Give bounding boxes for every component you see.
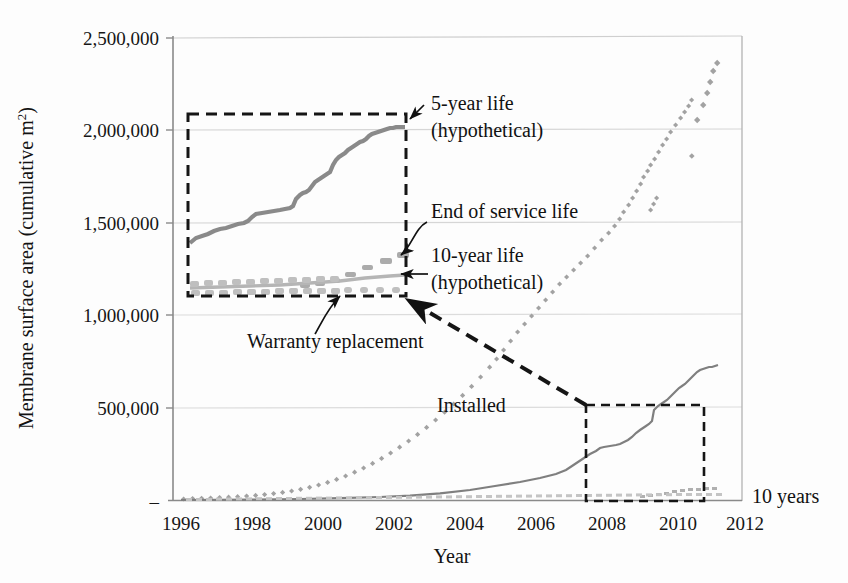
annotation-ten-year-life-line1: 10-year life: [431, 244, 524, 267]
annotation-end-of-service-label: End of service life: [431, 200, 578, 222]
y-axis-title: Membrane surface area (cumulative m2): [14, 107, 38, 429]
annotation-five-year-life-line2: (hypothetical): [431, 119, 543, 142]
x-tick-label: 2012: [726, 513, 764, 534]
inset-magnified: [188, 114, 409, 296]
y-tick-label: 2,000,000: [83, 120, 159, 141]
annotation-ten-year-life-line2: (hypothetical): [431, 271, 543, 294]
x-tick-label: 2004: [446, 513, 485, 534]
annotation-ten-years-label: 10 years: [752, 485, 819, 508]
annotation-ten-year-life: 10-year life (hypothetical): [401, 244, 543, 294]
y-tick-label: 1,500,000: [83, 213, 159, 234]
inset-connector-line: [408, 300, 586, 405]
y-tick-label: 500,000: [97, 398, 159, 419]
y-tick-label-zero: –: [149, 491, 160, 512]
series-five-year-life: [181, 365, 718, 500]
x-tick-label: 1996: [162, 513, 200, 534]
annotation-five-year-life-line1: 5-year life: [431, 92, 514, 115]
x-tick-label: 2010: [659, 513, 697, 534]
svg-text:Membrane surface area (cumulat: Membrane surface area (cumulative m2): [14, 107, 38, 429]
y-tick-label: 2,500,000: [83, 28, 159, 49]
x-tick-label: 1998: [233, 513, 271, 534]
figure-root: 2,500,000 2,000,000 1,500,000 1,000,000 …: [0, 0, 848, 583]
inset-border: [188, 114, 406, 296]
inset-source-box: [586, 405, 704, 501]
x-tick-label: 2006: [517, 513, 555, 534]
y-tick-label: 1,000,000: [83, 305, 159, 326]
annotation-installed-label: Installed: [437, 394, 506, 416]
annotation-warranty-label: Warranty replacement: [247, 330, 424, 353]
inset-series-five-year-life: [190, 127, 405, 243]
x-axis-title: Year: [434, 545, 471, 567]
annotation-warranty-replacement: Warranty replacement: [247, 296, 424, 353]
annotation-five-year-life: 5-year life (hypothetical): [410, 92, 543, 142]
chart-svg: 2,500,000 2,000,000 1,500,000 1,000,000 …: [0, 0, 848, 583]
y-axis-title-close: ): [15, 107, 38, 114]
x-tick-label: 2008: [588, 513, 626, 534]
x-tick-label: 2002: [375, 513, 413, 534]
y-axis-title-main: Membrane surface area (cumulative m: [15, 120, 38, 429]
x-tick-label: 2000: [304, 513, 342, 534]
